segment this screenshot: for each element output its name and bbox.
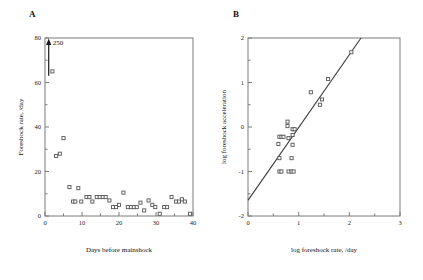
- x-tick-label: 20: [116, 219, 123, 226]
- y-axis-title: log foreshock acceleration: [220, 90, 228, 164]
- data-point: [286, 120, 289, 123]
- x-tick-label: 30: [153, 219, 160, 226]
- data-point: [80, 200, 83, 203]
- x-axis-title: Days before mainshock: [86, 246, 153, 254]
- data-point: [290, 157, 293, 160]
- panel-a-chart: 010203040020406080250Days before mainsho…: [0, 0, 210, 280]
- data-point: [320, 98, 323, 101]
- y-tick-label: 80: [35, 34, 42, 41]
- data-point: [62, 137, 65, 140]
- data-point: [154, 206, 157, 209]
- data-point: [108, 199, 111, 202]
- y-axis-title: Foreshock rate, /day: [17, 98, 25, 155]
- y-tick-label: 20: [35, 168, 42, 175]
- data-point: [166, 206, 169, 209]
- y-tick-label: 1: [241, 79, 244, 86]
- data-point: [291, 133, 294, 136]
- figure-container: A B 010203040020406080250Days before mai…: [0, 0, 423, 280]
- data-point: [309, 91, 312, 94]
- x-tick-label: 1: [297, 219, 300, 226]
- data-point: [291, 143, 294, 146]
- data-point: [88, 196, 91, 199]
- data-point: [280, 170, 283, 173]
- data-point: [143, 209, 146, 212]
- data-point: [170, 196, 173, 199]
- data-point: [104, 196, 107, 199]
- x-tick-label: 40: [190, 219, 197, 226]
- data-point: [55, 154, 58, 157]
- data-point: [327, 77, 330, 80]
- x-tick-label: 0: [43, 219, 46, 226]
- y-tick-label: 0: [241, 123, 244, 130]
- y-tick-label: 0: [38, 212, 41, 219]
- offscale-arrow-head: [46, 39, 51, 46]
- data-point: [277, 142, 280, 145]
- data-point: [158, 212, 161, 215]
- data-point: [282, 135, 285, 138]
- data-point: [74, 200, 77, 203]
- plot-frame: [248, 38, 400, 216]
- data-point: [135, 206, 138, 209]
- data-point: [58, 152, 61, 155]
- data-point: [51, 70, 54, 73]
- x-tick-label: 10: [79, 219, 86, 226]
- data-point: [122, 191, 125, 194]
- panel-b-chart: 0123-2-1012log foreshock rate, /daylog f…: [210, 0, 423, 280]
- data-point: [91, 200, 94, 203]
- y-tick-label: 60: [35, 79, 42, 86]
- data-point: [350, 51, 353, 54]
- x-axis-title: log foreshock rate, /day: [291, 246, 358, 254]
- offscale-arrow-label: 250: [53, 39, 64, 47]
- y-tick-label: -2: [239, 212, 244, 219]
- regression-line: [248, 38, 361, 200]
- x-tick-label: 0: [246, 219, 249, 226]
- plot-frame: [45, 38, 193, 216]
- data-point: [278, 157, 281, 160]
- data-point: [147, 199, 150, 202]
- data-point: [68, 186, 71, 189]
- y-tick-label: 40: [35, 123, 42, 130]
- data-point: [292, 170, 295, 173]
- data-point: [117, 203, 120, 206]
- data-point: [293, 128, 296, 131]
- data-point: [318, 103, 321, 106]
- data-point: [139, 201, 142, 204]
- data-point: [287, 137, 290, 140]
- y-tick-label: 2: [241, 34, 244, 41]
- y-tick-label: -1: [239, 168, 244, 175]
- data-point: [286, 125, 289, 128]
- x-tick-label: 2: [348, 219, 351, 226]
- data-point: [188, 212, 191, 215]
- data-point: [183, 200, 186, 203]
- data-point: [77, 187, 80, 190]
- x-tick-label: 3: [398, 219, 401, 226]
